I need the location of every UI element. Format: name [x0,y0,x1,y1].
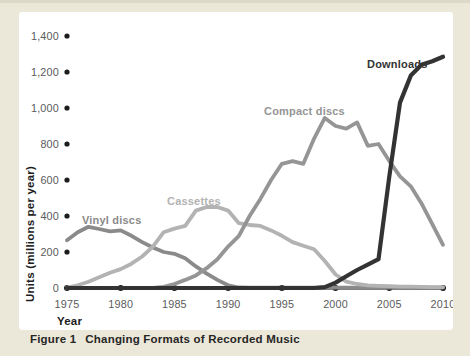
x-tick-label: 1995 [269,298,294,310]
textbook-figure-page: Units (millions per year) 02004006008001… [0,0,470,356]
series-line-vinyl-discs [67,227,443,288]
y-tick-label: 1,200 [31,66,59,78]
y-tick-label: 400 [40,210,59,222]
series-line-downloads [67,57,443,288]
x-tick-label: 2000 [323,298,348,310]
y-tick-label: 0 [53,282,59,294]
y-tick-label: 600 [40,174,59,186]
x-axis-title: Year [57,315,82,327]
x-tick-label: 1975 [55,298,80,310]
chart-generated-layer: 02004006008001,0001,2001,400197519801985… [31,30,453,310]
series-label-cassettes: Cassettes [167,195,221,207]
y-tick-label: 1,000 [31,102,59,114]
x-tick-label: 1980 [108,298,133,310]
y-tick-dot [64,141,69,146]
y-tick-label: 200 [40,246,59,258]
y-tick-dot [64,105,69,110]
figure-panel: Units (millions per year) 02004006008001… [19,12,453,330]
y-tick-dot [64,69,69,74]
figure-number-label: Figure 1 [30,333,76,345]
chart-canvas: Units (millions per year) 02004006008001… [19,12,453,330]
figure-title: Changing Formats of Recorded Music [85,333,299,345]
y-tick-dot [64,33,69,38]
y-axis-title: Units (millions per year) [24,166,36,302]
series-label-downloads: Downloads [367,58,427,70]
y-tick-dot [64,249,69,254]
x-tick-label: 2005 [377,298,402,310]
figure-caption: Figure 1Changing Formats of Recorded Mus… [30,333,300,345]
y-tick-label: 1,400 [31,30,59,42]
x-tick-label: 2010 [431,298,453,310]
x-tick-label: 1985 [162,298,187,310]
x-tick-label: 1990 [216,298,241,310]
series-label-vinyl-discs: Vinyl discs [82,214,141,226]
y-tick-dot [64,177,69,182]
y-tick-label: 800 [40,138,59,150]
y-tick-dot [64,213,69,218]
series-label-compact-discs: Compact discs [264,105,345,117]
